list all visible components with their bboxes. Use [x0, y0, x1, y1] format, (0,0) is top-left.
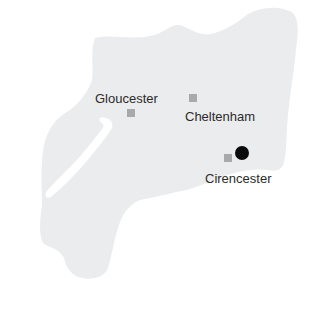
town-label-cheltenham: Cheltenham — [185, 110, 255, 123]
town-marker-cirencester — [224, 154, 232, 162]
town-label-cirencester: Cirencester — [205, 172, 271, 185]
location-highlight-dot — [235, 146, 249, 160]
town-marker-cheltenham — [189, 94, 197, 102]
region-shape — [40, 8, 298, 279]
town-label-gloucester: Gloucester — [95, 92, 158, 105]
county-map — [0, 0, 321, 319]
town-marker-gloucester — [127, 109, 135, 117]
